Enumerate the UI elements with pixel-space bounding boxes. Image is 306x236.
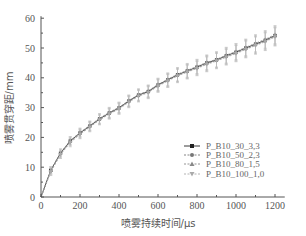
- data-point: [205, 63, 209, 67]
- y-tick-label: 30: [25, 102, 35, 113]
- x-tick-label: 800: [190, 200, 205, 211]
- y-tick-label: 40: [25, 72, 35, 83]
- y-tick-label: 20: [25, 132, 35, 143]
- triangle-up-marker-icon: [190, 162, 195, 167]
- x-tick-label: 600: [151, 200, 166, 211]
- legend-label: P_B10_100_1,0: [206, 169, 265, 179]
- x-axis-title: 喷雾持续时间/μs: [121, 217, 196, 229]
- legend-item: P_B10_100_1,0: [184, 169, 265, 179]
- y-tick-label: 50: [25, 43, 35, 54]
- legend-label: P_B10_80_1,5: [206, 159, 260, 169]
- y-tick-label: 60: [25, 13, 35, 24]
- square-marker-icon: [190, 144, 194, 148]
- chart: 0200400600800100012000102030405060 喷雾持续时…: [0, 0, 306, 236]
- triangle-down-marker-icon: [190, 172, 195, 177]
- legend-item: P_B10_80_1,5: [184, 159, 260, 169]
- y-axis-title: 喷雾贯穿距/mm: [3, 72, 15, 145]
- y-tick-label: 0: [30, 192, 35, 203]
- x-tick-label: 400: [112, 200, 127, 211]
- data-point: [273, 35, 277, 39]
- x-tick-label: 1200: [265, 200, 285, 211]
- y-tick-label: 10: [25, 162, 35, 173]
- legend: P_B10_30_3,3P_B10_50_2,3P_B10_80_1,5P_B1…: [184, 141, 265, 179]
- x-tick-label: 1000: [226, 200, 246, 211]
- x-tick-label: 200: [73, 200, 88, 211]
- circle-marker-icon: [190, 153, 194, 157]
- x-tick-label: 0: [39, 200, 44, 211]
